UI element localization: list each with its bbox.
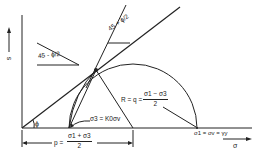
- p-label-prefix: p =: [54, 140, 63, 147]
- p-arrowhead-left-icon: [22, 141, 27, 145]
- sigma1-point: [196, 127, 198, 129]
- radius-fraction: σ1 − σ3 2: [143, 91, 168, 107]
- sigma-axis-label: σ: [233, 142, 237, 149]
- sigma1-label: σ1 = σv = γy: [194, 130, 227, 136]
- sigma3-label: σ3 = K0σv: [90, 116, 120, 123]
- radius-label-prefix: R = q =: [121, 97, 142, 104]
- p-numerator: σ1 + σ3: [67, 133, 92, 142]
- phi-label: ϕ: [35, 120, 39, 127]
- sigma3-label-leader: [71, 121, 90, 127]
- radius-denominator: 2: [143, 100, 168, 108]
- p-arrowhead-right-icon: [128, 141, 133, 145]
- s-arrowhead-icon: [7, 27, 11, 33]
- radius-numerator: σ1 − σ3: [143, 91, 168, 100]
- s-axis-label: s: [5, 57, 12, 61]
- p-fraction: σ1 + σ3 2: [67, 133, 92, 149]
- p-denominator: 2: [67, 142, 92, 150]
- failure-envelope: [22, 7, 180, 128]
- tangent-point: [94, 68, 98, 72]
- sigma-arrowhead-icon: [246, 137, 252, 141]
- radius-label-leader: [163, 107, 196, 127]
